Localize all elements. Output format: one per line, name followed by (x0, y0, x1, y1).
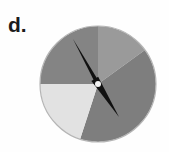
pie-clock-chart (0, 0, 169, 152)
figure-panel: d. (0, 0, 169, 152)
clock-center-hub (95, 81, 101, 87)
pie-slice-4 (40, 26, 98, 84)
